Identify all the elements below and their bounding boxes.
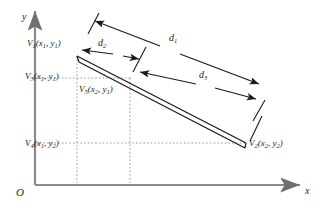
d3-arrow-left: [140, 72, 196, 84]
segment-cap-right: [245, 143, 246, 148]
y-axis-label: y: [22, 12, 26, 22]
dimension-d2: [82, 50, 139, 59]
vertex-label-v3: V3(x1, y1): [25, 72, 59, 81]
vertex-label-v1: V1(x1, y1): [27, 39, 61, 48]
segment-line-lower: [79, 62, 245, 148]
d2-arrow-left: [82, 50, 113, 54]
distance-label-d1: d1: [169, 33, 177, 43]
vertex-label-v4: V4(x1, y2): [25, 139, 59, 148]
tick-d1-right: [253, 100, 265, 121]
d3-arrow-right: [215, 88, 256, 99]
axis-group: [35, 11, 300, 185]
x-axis-label: x: [305, 186, 309, 196]
vertex-label-v5: V5(x2, y1): [79, 85, 113, 94]
d1-arrow-right: [180, 54, 259, 84]
vertex-label-v2: V2(x2, y2): [249, 139, 283, 148]
diagram-canvas: y x O V1(x1, y1) V3(x1, y1) V4(x1, y2) V…: [0, 0, 326, 212]
projection-guides: [36, 56, 246, 183]
origin-label: O: [16, 187, 24, 198]
d2-arrow-right: [123, 56, 139, 59]
dimension-d1: [95, 21, 259, 84]
distance-label-d3: d3: [199, 70, 207, 80]
diagram-svg: [0, 0, 326, 212]
tick-d1-left: [88, 13, 99, 34]
distance-label-d2: d2: [98, 38, 106, 48]
tick-d2-right: [133, 47, 146, 72]
